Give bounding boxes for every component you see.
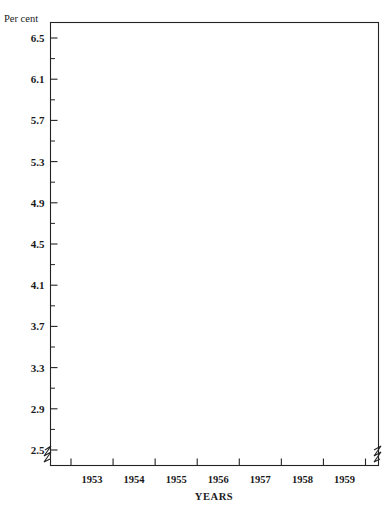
axis-break-icon-right	[374, 446, 381, 462]
x-tick-label: 1958	[292, 474, 313, 485]
x-tick-label: 1959	[334, 474, 355, 485]
plot-frame	[51, 23, 379, 466]
yields-line-chart: Per cent 2.52.93.33.74.14.54.95.35.76.16…	[0, 0, 392, 506]
x-tick-label: 1956	[208, 474, 229, 485]
y-tick-label: 2.9	[31, 403, 45, 415]
y-tick-label: 3.7	[31, 320, 45, 332]
y-tick-label: 6.1	[31, 73, 45, 85]
x-tick-label: 1955	[166, 474, 187, 485]
y-tick-label: 5.7	[31, 114, 45, 126]
x-axis-title: YEARS	[195, 491, 234, 502]
y-tick-label: 4.1	[31, 279, 45, 291]
y-tick-label: 4.5	[31, 238, 45, 250]
y-tick-label: 5.3	[31, 156, 45, 168]
chart-figure: Per cent 2.52.93.33.74.14.54.95.35.76.16…	[0, 0, 392, 506]
x-tick-label: 1957	[250, 474, 271, 485]
y-tick-label: 3.3	[31, 362, 45, 374]
x-axis-ticks	[71, 459, 366, 466]
x-axis-tick-labels: 1953195419551956195719581959	[82, 474, 355, 485]
axis-break-icon	[44, 446, 51, 462]
y-tick-label: 4.9	[31, 197, 45, 209]
x-tick-label: 1954	[124, 474, 146, 485]
y-tick-label: 2.5	[31, 444, 45, 456]
y-axis-ticks: 2.52.93.33.74.14.54.95.35.76.16.5	[31, 32, 58, 456]
x-tick-label: 1953	[82, 474, 103, 485]
y-tick-label: 6.5	[31, 32, 45, 44]
y-axis-unit-label: Per cent	[4, 13, 38, 24]
